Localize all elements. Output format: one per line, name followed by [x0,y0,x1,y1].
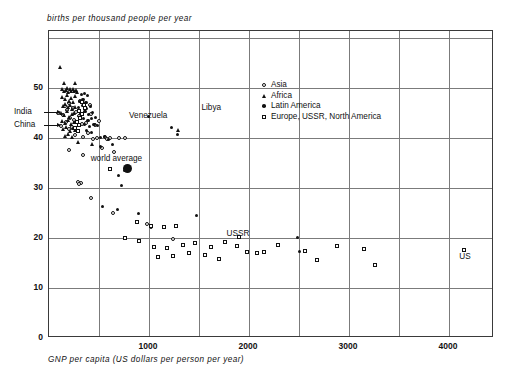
data-point-latin-america [111,143,115,147]
data-point-africa [62,113,66,117]
y-tick-label: 50 [17,82,43,92]
y-tick-label: 20 [17,232,43,242]
data-point-asia [77,182,81,186]
annotation-arrow [44,125,60,126]
data-point-latin-america [86,94,90,98]
data-point-latin-america [91,111,95,115]
data-point-latin-america [195,214,199,218]
data-point-africa [90,142,94,146]
data-point-europe [171,254,175,258]
data-point-asia [117,136,121,140]
data-point-latin-america [90,117,94,121]
legend-marker-open-square-icon [262,115,266,119]
data-point-africa [70,135,74,139]
data-point-europe [156,255,160,259]
gridline-vertical [99,31,100,336]
x-axis-title: GNP per capita (US dollars per person pe… [48,355,244,364]
data-point-europe [83,106,87,110]
data-point-asia [171,237,175,241]
data-point-europe [181,243,185,247]
gridline-vertical [399,31,400,336]
annotation-arrow [44,112,60,113]
data-point-europe [209,245,213,249]
gridline-vertical [349,31,350,336]
data-point-latin-america [90,131,94,135]
data-point-world-average [123,164,132,173]
gridline-vertical [449,31,450,336]
data-point-europe [187,251,191,255]
data-point-latin-america [117,174,121,178]
y-tick-label: 30 [17,182,43,192]
data-point-europe [152,245,156,249]
gridline-horizontal [49,188,492,189]
legend-label: Africa [271,91,292,102]
data-point-latin-america [116,208,120,212]
gridline-horizontal [49,238,492,239]
y-tick-label: 10 [17,282,43,292]
data-point-europe [362,247,366,251]
data-point-asia [89,196,93,200]
gridline-horizontal [49,288,492,289]
data-point-africa [65,109,69,113]
data-point-europe [137,239,141,243]
y-axis-title: births per thousand people per year [47,14,192,23]
legend-label: Latin America [271,101,321,112]
data-point-europe [165,246,169,250]
data-point-latin-america [170,126,174,130]
data-point-europe [77,123,81,127]
legend-marker-filled-circle-icon [262,104,266,108]
gridline-horizontal [49,138,492,139]
data-point-asia [123,136,127,140]
data-point-latin-america [176,133,180,137]
legend-label: Europe, USSR, North America [271,112,381,123]
data-point-latin-america [82,117,86,121]
data-point-asia [73,133,77,137]
data-point-latin-america [120,184,124,188]
data-point-europe [303,249,307,253]
annotation-libya: Libya [202,103,222,112]
legend-label: Asia [271,80,287,91]
data-point-europe [373,263,377,267]
data-point-europe [217,257,221,261]
y-tick-label: 40 [17,132,43,142]
data-point-africa [73,94,77,98]
data-point-europe [135,220,139,224]
annotation-world-average: world average [91,154,142,163]
data-point-latin-america [88,125,92,129]
data-point-latin-america [137,212,141,216]
y-tick-label: 0 [17,332,43,342]
annotation-india: India [14,107,32,116]
gridline-vertical [249,31,250,336]
data-point-europe [235,244,239,248]
data-point-asia [97,119,101,123]
data-point-africa [73,81,77,85]
data-point-africa [72,111,76,115]
annotation-ussr: USSR [227,229,250,238]
data-point-europe [174,224,178,228]
data-point-europe [162,225,166,229]
data-point-latin-america [89,105,93,109]
data-point-europe [315,258,319,262]
gridline-vertical [149,31,150,336]
data-point-europe [245,250,249,254]
data-point-europe [203,253,207,257]
data-point-europe [255,251,259,255]
legend-marker-filled-triangle-icon [262,94,266,98]
data-point-asia [111,211,115,215]
x-tick-label: 3000 [328,341,368,351]
gridline-vertical [299,31,300,336]
x-tick-label: 1000 [128,341,168,351]
data-point-latin-america [83,123,87,127]
data-point-europe [123,236,127,240]
data-point-africa [76,140,80,144]
data-point-europe [76,129,80,133]
data-point-latin-america [101,205,105,209]
annotation-china: China [14,120,35,129]
data-point-africa [176,128,180,132]
data-point-europe [223,240,227,244]
x-tick-label: 4000 [428,341,468,351]
data-point-europe [108,167,112,171]
data-point-europe [262,250,266,254]
data-point-europe [276,243,280,247]
data-point-europe [149,224,153,228]
